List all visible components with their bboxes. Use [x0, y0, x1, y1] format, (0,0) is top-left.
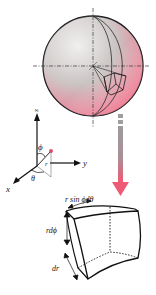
theta-label: θ: [31, 174, 35, 183]
height-label: rdϕ: [46, 226, 57, 235]
spherical-volume-element-diagram: z y x ϕ θ r: [0, 0, 156, 295]
coordinate-axes: [13, 113, 81, 184]
phi-label: ϕ: [38, 142, 43, 152]
sphere: [33, 8, 150, 128]
y-axis-label: y: [82, 158, 87, 168]
width-label: r sin ϕdθ: [65, 195, 94, 204]
z-axis-label: z: [32, 109, 40, 112]
transition-arrow: [112, 114, 129, 196]
large-volume-element: [66, 206, 141, 279]
depth-label: dr: [52, 264, 60, 273]
r-label: r: [45, 160, 48, 168]
x-axis-label: x: [5, 184, 10, 194]
